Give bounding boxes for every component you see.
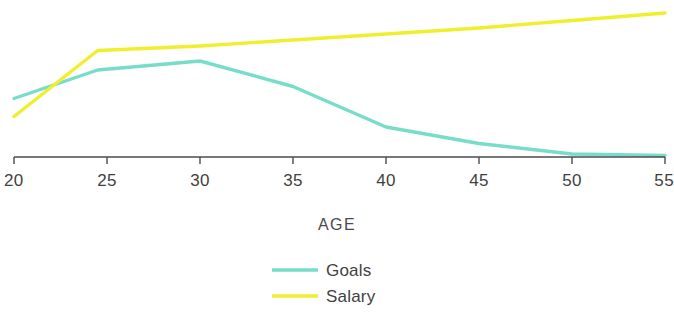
series-line-goals [14, 61, 665, 156]
x-tick-label-55: 55 [654, 171, 674, 190]
chart-legend: GoalsSalary [272, 261, 376, 306]
x-tick-label-25: 25 [97, 171, 117, 190]
x-tick-label-20: 20 [4, 171, 24, 190]
chart-canvas: 2025303540455055 AGE GoalsSalary [0, 0, 674, 314]
x-tick-label-35: 35 [283, 171, 303, 190]
series-layer [14, 13, 665, 156]
legend-label-goals: Goals [326, 261, 371, 280]
x-axis-title: AGE [318, 216, 356, 233]
series-line-salary [14, 13, 665, 117]
legend-label-salary: Salary [326, 287, 376, 306]
line-chart: 2025303540455055 AGE GoalsSalary [0, 0, 674, 314]
axis-ticks [14, 157, 665, 164]
x-tick-label-40: 40 [376, 171, 396, 190]
x-tick-label-50: 50 [562, 171, 582, 190]
x-tick-label-45: 45 [469, 171, 489, 190]
x-axis [14, 157, 665, 164]
axis-tick-labels: 2025303540455055 [4, 171, 674, 190]
x-tick-label-30: 30 [190, 171, 210, 190]
